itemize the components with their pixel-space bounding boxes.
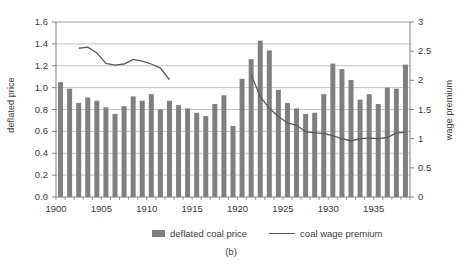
x-axis-tick-label: 1910	[127, 203, 167, 214]
bar	[149, 94, 154, 197]
bar	[85, 97, 90, 197]
bar	[58, 82, 63, 197]
bar	[349, 80, 354, 197]
bar	[194, 113, 199, 197]
y2-axis-tick-label: 0.5	[418, 162, 448, 173]
line-swatch-icon	[269, 233, 295, 234]
y-axis-tick-label: 1.4	[18, 38, 48, 49]
bar-swatch-icon	[152, 230, 165, 237]
figure-caption: (b)	[0, 246, 462, 257]
y-axis-tick-label: 0.4	[18, 147, 48, 158]
bar	[385, 88, 390, 197]
bar	[94, 101, 99, 197]
bar	[203, 116, 208, 197]
y-axis-tick-label: 0.8	[18, 104, 48, 115]
x-axis-tick-label: 1930	[308, 203, 348, 214]
y2-axis-tick-label: 2	[418, 74, 448, 85]
legend-item-deflated-coal-price: deflated coal price	[152, 228, 247, 239]
bar	[103, 107, 108, 197]
chart-plot-area	[0, 0, 462, 264]
bar	[140, 101, 145, 197]
x-axis-tick-label: 1900	[36, 203, 76, 214]
bar	[122, 106, 127, 197]
bar	[176, 105, 181, 197]
bar	[113, 114, 118, 197]
bar	[267, 50, 272, 197]
bar	[167, 101, 172, 197]
bar	[231, 126, 236, 197]
bar	[276, 90, 281, 197]
chart-figure: deflated price wage premium deflated coa…	[0, 0, 462, 264]
bar	[303, 114, 308, 197]
y-axis-tick-label: 0.2	[18, 169, 48, 180]
bar	[376, 104, 381, 197]
bar	[358, 100, 363, 197]
bar	[76, 103, 81, 197]
line-series	[79, 47, 170, 80]
bar	[394, 89, 399, 197]
bar	[67, 89, 72, 197]
bar	[321, 94, 326, 197]
legend-label: deflated coal price	[170, 228, 247, 239]
bar	[330, 64, 335, 197]
y2-axis-tick-label: 1	[418, 133, 448, 144]
legend-label: coal wage premium	[300, 228, 382, 239]
bar	[221, 95, 226, 197]
y2-axis-tick-label: 0	[418, 191, 448, 202]
x-axis-tick-label: 1920	[218, 203, 258, 214]
y-axis-tick-label: 1.6	[18, 16, 48, 27]
bar	[212, 104, 217, 197]
y-axis-tick-label: 0.0	[18, 191, 48, 202]
bar	[258, 41, 263, 197]
bar	[339, 69, 344, 197]
y2-axis-tick-label: 2.5	[418, 45, 448, 56]
bar	[131, 96, 136, 197]
bar	[240, 79, 245, 197]
y2-axis-tick-label: 3	[418, 16, 448, 27]
y-axis-tick-label: 0.6	[18, 125, 48, 136]
y-axis-tick-label: 1.2	[18, 60, 48, 71]
bar	[185, 108, 190, 197]
y-axis-tick-label: 1.0	[18, 82, 48, 93]
x-axis-tick-label: 1935	[354, 203, 394, 214]
bar	[294, 108, 299, 197]
x-axis-tick-label: 1905	[81, 203, 121, 214]
bar	[312, 113, 317, 197]
chart-legend: deflated coal price coal wage premium	[152, 228, 382, 239]
y2-axis-tick-label: 1.5	[418, 104, 448, 115]
x-axis-tick-label: 1915	[172, 203, 212, 214]
bar	[367, 94, 372, 197]
bar	[285, 103, 290, 197]
bar	[403, 65, 408, 197]
bar	[158, 110, 163, 198]
x-axis-tick-label: 1925	[263, 203, 303, 214]
legend-item-coal-wage-premium: coal wage premium	[269, 228, 382, 239]
